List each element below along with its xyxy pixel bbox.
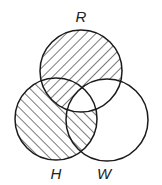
label-h: H [51,165,62,182]
venn-diagram: R H W [0,0,162,185]
label-w: W [97,165,113,182]
label-r: R [76,8,87,25]
